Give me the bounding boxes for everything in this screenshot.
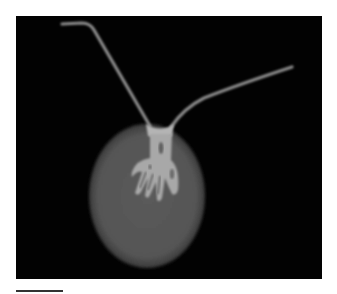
palm-hole-right: [170, 169, 174, 179]
micrograph-image: [16, 16, 322, 279]
micrograph-panel: [16, 16, 322, 279]
scale-bar: [16, 290, 63, 292]
scale-bar-label: [16, 290, 17, 291]
palm-hole-upper: [159, 142, 164, 154]
palm-hole-left: [148, 165, 151, 170]
right-filament: [171, 67, 292, 127]
left-filament: [62, 23, 150, 126]
